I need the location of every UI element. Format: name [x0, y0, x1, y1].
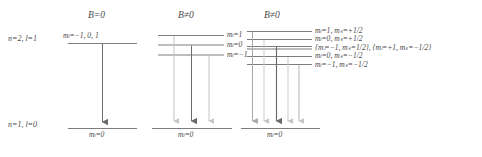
state-label-lower: n=1, l=0 [8, 121, 37, 129]
column-2-header: B≠0 [178, 11, 194, 21]
level-label-upper-c2-3: mₗ=−1 [227, 51, 248, 59]
level-label-upper-c1: mₗ=−1, 0, 1 [63, 32, 99, 40]
zeeman-energy-level-diagram [0, 0, 482, 157]
level-label-upper-c3-3: {mₗ=−1, mₛ=1/2}, {mₗ=+1, mₛ=−1/2} [315, 44, 431, 52]
level-label-lower-c2: mₗ=0 [178, 131, 193, 139]
level-label-upper-c3-5: mₗ=−1, mₛ=−1/2 [315, 61, 368, 69]
level-label-upper-c2-1: mₗ=1 [227, 31, 242, 39]
level-label-lower-c1: mₗ=0 [89, 131, 104, 139]
column-2-b-nonzero-orbital [152, 36, 232, 129]
column-1-b-zero [68, 44, 137, 129]
level-label-upper-c3-4: mₗ=0, mₛ=−1/2 [315, 52, 363, 60]
level-label-lower-c3: mₗ=0 [267, 131, 282, 139]
level-label-upper-c3-2: mₗ=0, mₛ=+1/2 [315, 35, 363, 43]
column-3-header: B≠0 [264, 11, 280, 21]
level-label-upper-c2-2: mₗ=0 [227, 41, 242, 49]
state-label-upper: n=2, l=1 [8, 35, 37, 43]
column-3-b-nonzero-spin [241, 32, 320, 129]
column-1-header: B=0 [88, 11, 105, 21]
